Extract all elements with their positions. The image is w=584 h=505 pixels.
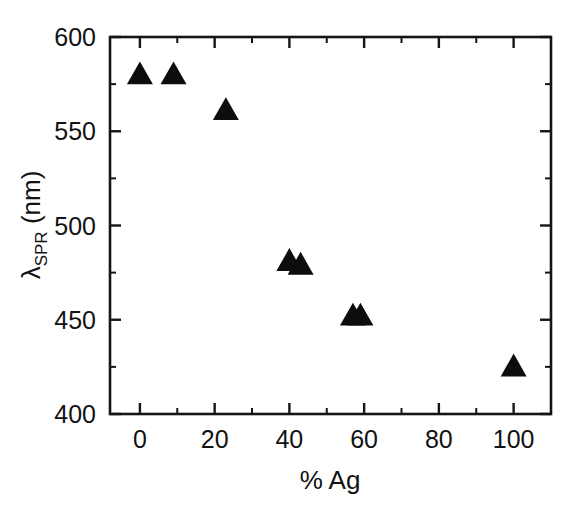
y-tick-label: 600 [54, 23, 96, 51]
x-tick-label: 20 [201, 425, 229, 453]
y-axis-title-unit: (nm) [16, 171, 46, 232]
x-tick-label: 0 [133, 425, 147, 453]
x-tick-label: 80 [425, 425, 453, 453]
x-tick-label: 40 [275, 425, 303, 453]
y-tick-label: 550 [54, 117, 96, 145]
figure-container: 020406080100 400450500550600 % Ag λSPR (… [0, 0, 584, 505]
scatter-plot: 020406080100 400450500550600 % Ag λSPR (… [0, 0, 584, 505]
y-tick-label: 400 [54, 400, 96, 428]
x-tick-label: 100 [493, 425, 535, 453]
y-tick-label: 500 [54, 212, 96, 240]
x-tick-label: 60 [350, 425, 378, 453]
y-axis-title-lambda: λ [16, 266, 46, 279]
x-axis-title: % Ag [300, 465, 361, 495]
y-axis-title-subscript: SPR [32, 231, 51, 266]
y-tick-label: 450 [54, 306, 96, 334]
